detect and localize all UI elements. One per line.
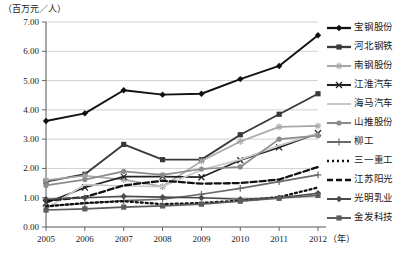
- legend-key-swatch: [326, 155, 352, 167]
- legend-key-swatch: [326, 22, 352, 34]
- x-axis-unit-label: （年）: [328, 233, 355, 244]
- legend-item[interactable]: 江苏阳光: [326, 169, 416, 188]
- data-point-marker: [336, 216, 341, 221]
- x-axis-tick-label: 2008: [154, 234, 173, 244]
- y-axis-tick-label: 0.00: [23, 222, 39, 232]
- data-point-marker: [315, 91, 320, 96]
- x-axis-tick-label: 2012: [309, 234, 327, 244]
- legend-key-icon: [326, 96, 352, 108]
- data-point-marker: [199, 202, 204, 207]
- legend-item-label: 光明乳业: [352, 190, 393, 204]
- data-point-marker: [277, 112, 282, 117]
- data-point-marker: [82, 177, 87, 182]
- chart-legend: 宝钢股份 河北钢铁 南钢股份 江淮汽车 海马汽车 山推股份 柳工 三一重工: [326, 16, 416, 226]
- legend-item-label: 海马汽车: [352, 95, 393, 109]
- legend-key-icon: [326, 58, 352, 70]
- legend-key-swatch: [326, 98, 352, 110]
- legend-key-swatch: [326, 41, 352, 53]
- data-point-marker: [277, 137, 282, 142]
- legend-item[interactable]: 河北钢铁: [326, 35, 416, 54]
- data-point-marker: [121, 142, 126, 147]
- legend-item[interactable]: 山推股份: [326, 111, 416, 130]
- data-point-marker: [121, 193, 127, 199]
- legend-item[interactable]: 宝钢股份: [326, 16, 416, 35]
- legend-item-label: 三一重工: [352, 152, 393, 166]
- data-point-marker: [336, 196, 342, 202]
- data-point-marker: [315, 133, 320, 138]
- legend-key-icon: [326, 210, 352, 222]
- legend-item-label: 柳工: [352, 133, 374, 147]
- legend-item-label: 山推股份: [352, 114, 393, 128]
- legend-key-swatch: [326, 60, 352, 72]
- data-point-marker: [336, 24, 342, 30]
- data-point-marker: [198, 195, 204, 201]
- legend-item[interactable]: 柳工: [326, 131, 416, 150]
- data-point-marker: [315, 171, 322, 178]
- legend-key-icon: [326, 39, 352, 51]
- legend-item[interactable]: 三一重工: [326, 150, 416, 169]
- x-axis-tick-label: 2005: [37, 234, 56, 244]
- data-point-marker: [160, 157, 165, 162]
- legend-item-label: 河北钢铁: [352, 38, 393, 52]
- data-point-marker: [315, 123, 322, 130]
- data-point-marker: [43, 207, 48, 212]
- legend-item[interactable]: 金发科技: [326, 207, 416, 226]
- legend-key-icon: [326, 172, 352, 184]
- data-point-marker: [237, 76, 243, 82]
- legend-item-label: 江苏阳光: [352, 171, 393, 185]
- data-point-marker: [160, 172, 165, 177]
- x-axis-tick-label: 2006: [76, 234, 95, 244]
- chart-root: （百万元／人） 0.001.002.003.004.005.006.007.00…: [0, 0, 416, 256]
- series-宝钢股份: [43, 32, 321, 124]
- legend-item[interactable]: 光明乳业: [326, 188, 416, 207]
- data-point-marker: [336, 44, 341, 49]
- legend-key-swatch: [326, 117, 352, 129]
- data-point-marker: [238, 132, 243, 137]
- series-line: [46, 35, 318, 121]
- x-axis-tick-label: 2011: [270, 234, 288, 244]
- legend-item-label: 江淮汽车: [352, 76, 393, 90]
- data-point-marker: [237, 138, 244, 145]
- data-point-marker: [121, 204, 126, 209]
- x-axis-tick-label: 2007: [115, 234, 134, 244]
- y-axis-tick-label: 3.00: [23, 134, 39, 144]
- y-axis-tick-label: 2.00: [23, 163, 39, 173]
- legend-key-icon: [326, 134, 352, 146]
- y-axis-tick-label: 7.00: [23, 17, 39, 27]
- legend-key-swatch: [326, 212, 352, 224]
- data-point-marker: [43, 177, 50, 184]
- data-point-marker: [43, 183, 48, 188]
- legend-key-swatch: [326, 79, 352, 91]
- y-axis-tick-label: 1.00: [23, 193, 39, 203]
- data-point-marker: [160, 203, 165, 208]
- data-point-marker: [238, 199, 243, 204]
- legend-key-swatch: [326, 193, 352, 205]
- legend-key-swatch: [326, 136, 352, 148]
- data-point-marker: [276, 123, 283, 130]
- legend-item[interactable]: 南钢股份: [326, 54, 416, 73]
- data-point-marker: [121, 169, 126, 174]
- data-point-marker: [277, 196, 282, 201]
- legend-item[interactable]: 江淮汽车: [326, 73, 416, 92]
- data-point-marker: [82, 206, 87, 211]
- legend-key-swatch: [326, 174, 352, 186]
- data-point-marker: [198, 91, 204, 97]
- legend-item-label: 宝钢股份: [352, 19, 393, 33]
- legend-item-label: 金发科技: [352, 209, 393, 223]
- data-point-marker: [336, 139, 343, 146]
- data-point-marker: [315, 193, 320, 198]
- legend-key-icon: [326, 153, 352, 165]
- data-point-marker: [336, 120, 341, 125]
- data-point-marker: [237, 185, 244, 192]
- data-point-marker: [43, 118, 49, 124]
- y-axis-tick-label: 5.00: [23, 76, 39, 86]
- y-axis-tick-label: 4.00: [23, 105, 39, 115]
- legend-item-label: 南钢股份: [352, 57, 393, 71]
- legend-item[interactable]: 海马汽车: [326, 92, 416, 111]
- legend-key-icon: [326, 20, 352, 32]
- data-point-marker: [198, 158, 205, 165]
- legend-key-icon: [326, 191, 352, 203]
- x-axis-tick-label: 2010: [231, 234, 250, 244]
- x-axis-tick-label: 2009: [192, 234, 211, 244]
- data-point-marker: [159, 91, 165, 97]
